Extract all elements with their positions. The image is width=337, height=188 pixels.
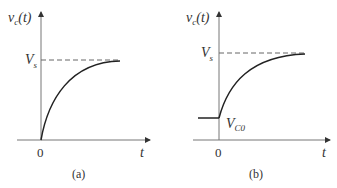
caption-b: (b): [249, 167, 263, 181]
vs-label: Vs: [201, 45, 214, 63]
vs-label: Vs: [25, 52, 38, 70]
y-axis-label: vc(t): [8, 10, 32, 27]
origin-label: 0: [37, 145, 44, 160]
capacitor-charging-diagrams: vc(t) Vs 0 t (a) vc(t) Vs VC0 0 t (b): [0, 0, 337, 188]
figure-b: vc(t) Vs VC0 0 t (b): [186, 10, 330, 181]
origin-label: 0: [215, 145, 222, 160]
x-axis-label: t: [322, 145, 327, 160]
caption-a: (a): [72, 167, 85, 181]
charging-curve: [219, 54, 305, 118]
charging-curve: [41, 61, 120, 140]
y-axis-label: vc(t): [186, 10, 210, 27]
vc0-label: VC0: [226, 116, 246, 133]
figure-a: vc(t) Vs 0 t (a): [8, 10, 150, 181]
x-axis-label: t: [140, 145, 145, 160]
